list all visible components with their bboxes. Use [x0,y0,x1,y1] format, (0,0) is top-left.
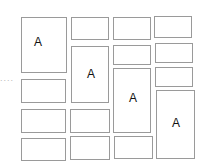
tile-label: A [172,116,180,130]
tile-small [113,17,151,40]
tile-small [154,16,192,38]
ellipsis-dots: .... [0,73,14,83]
tile-small [21,79,66,103]
tile-small [70,136,110,160]
tile-small [114,136,153,159]
tile-small [21,109,66,133]
tile-small [155,43,193,63]
tile-label: A [34,35,42,49]
tile-label: A [87,67,95,81]
tile-large: A [21,17,67,73]
tile-small [21,138,66,161]
tile-small [70,109,110,133]
tile-small [71,17,109,40]
tile-small [113,45,151,65]
tile-small [155,67,193,87]
tile-large: A [71,46,109,103]
tile-large: A [156,90,195,159]
tile-large: A [113,68,151,133]
tile-label: A [129,91,137,105]
